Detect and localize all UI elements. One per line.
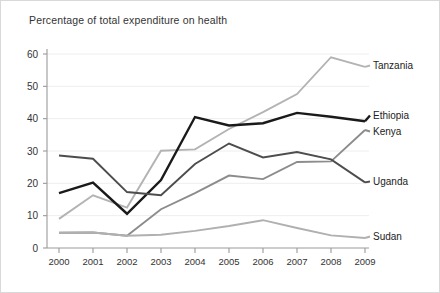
chart-figure: Percentage of total expenditure on healt…: [0, 0, 440, 293]
tick-marks-group: [43, 54, 365, 253]
line-chart-plot: 0102030405060 20002001200220032004200520…: [1, 1, 440, 293]
series-leader-uganda: [365, 182, 370, 183]
series-label-uganda: Uganda: [373, 176, 408, 187]
x-tick-label: 2006: [252, 256, 273, 267]
y-tick-label: 0: [32, 243, 38, 254]
series-label-tanzania: Tanzania: [373, 60, 413, 71]
series-line-sudan: [59, 220, 365, 238]
y-axis-tick-labels: 0102030405060: [27, 49, 39, 254]
y-tick-label: 20: [27, 178, 39, 189]
y-tick-label: 10: [27, 210, 39, 221]
series-label-kenya: Kenya: [373, 126, 402, 137]
series-labels-group: TanzaniaEthiopiaKenyaUgandaSudan: [365, 60, 413, 242]
y-tick-label: 30: [27, 146, 39, 157]
x-tick-label: 2007: [286, 256, 307, 267]
x-tick-label: 2005: [218, 256, 239, 267]
x-tick-label: 2009: [354, 256, 375, 267]
series-leader-sudan: [365, 237, 370, 238]
axes-group: [47, 49, 369, 248]
gridlines-group: [47, 54, 369, 216]
y-tick-label: 60: [27, 49, 39, 60]
series-label-ethiopia: Ethiopia: [373, 110, 410, 121]
y-tick-label: 40: [27, 113, 39, 124]
series-leader-kenya: [365, 130, 370, 132]
x-tick-label: 2000: [48, 256, 69, 267]
series-lines-group: [59, 57, 365, 238]
series-label-sudan: Sudan: [373, 231, 402, 242]
x-tick-label: 2002: [116, 256, 137, 267]
series-leader-tanzania: [365, 66, 370, 67]
y-tick-label: 50: [27, 81, 39, 92]
x-tick-label: 2008: [320, 256, 341, 267]
x-tick-label: 2001: [82, 256, 103, 267]
x-axis-tick-labels: 2000200120022003200420052006200720082009: [48, 256, 375, 267]
x-tick-label: 2004: [184, 256, 205, 267]
x-tick-label: 2003: [150, 256, 171, 267]
